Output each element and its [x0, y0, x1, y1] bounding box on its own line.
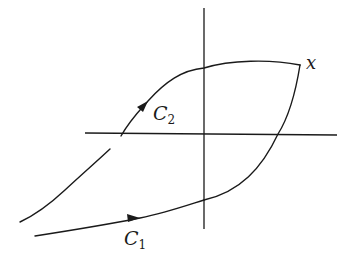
point-x-label: x: [306, 54, 316, 72]
arrowhead-c1-icon: [127, 214, 140, 222]
curve-c1: [35, 200, 204, 236]
c1-label: C1: [124, 229, 146, 251]
curve-c2: [121, 61, 300, 136]
c2-label-main: C: [153, 102, 168, 124]
curve-right-branch: [204, 65, 300, 200]
hysteresis-diagram: [0, 0, 356, 257]
arrowhead-c2-icon: [137, 101, 148, 112]
curve-lower-left-segment: [20, 149, 110, 222]
c1-label-main: C: [124, 227, 139, 249]
c1-label-subscript: 1: [139, 238, 147, 252]
c2-label: C2: [153, 104, 175, 126]
c2-label-subscript: 2: [168, 113, 176, 127]
